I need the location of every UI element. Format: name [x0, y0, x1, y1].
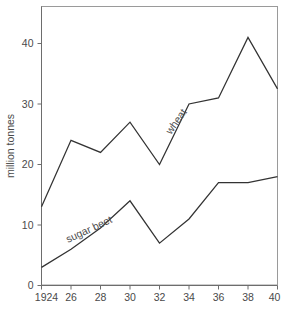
x-tick-label: 30	[124, 291, 136, 303]
y-tick-label: 30	[22, 98, 34, 110]
y-tick-label: 20	[22, 158, 34, 170]
y-axis-title: million tonnes	[4, 114, 16, 178]
x-tick-label: 34	[183, 291, 195, 303]
x-tick-label: 1924	[35, 291, 59, 303]
y-tick-label: 40	[22, 37, 34, 49]
y-tick-label: 10	[22, 219, 34, 231]
chart-background	[0, 0, 291, 310]
y-tick-label: 0	[28, 279, 34, 291]
x-tick-label: 40	[269, 291, 281, 303]
chart-container: 010203040 million tonnes 192426283032343…	[0, 0, 291, 310]
x-tick-label: 28	[95, 291, 107, 303]
line-chart: 010203040 million tonnes 192426283032343…	[0, 0, 291, 310]
x-tick-label: 38	[242, 291, 254, 303]
x-tick-label: 32	[154, 291, 166, 303]
x-tick-label: 36	[213, 291, 225, 303]
x-tick-label: 26	[65, 291, 77, 303]
